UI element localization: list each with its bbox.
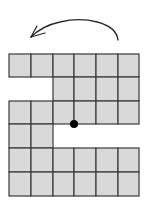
grid-cell <box>9 148 31 172</box>
grid-cell <box>118 172 139 196</box>
grid-cell <box>118 54 139 77</box>
grid-cell <box>9 172 31 196</box>
grid-cell <box>53 101 74 124</box>
grid-cell <box>118 101 139 124</box>
counterclockwise-arrow-icon <box>31 20 118 40</box>
grid-cell <box>74 172 96 196</box>
grid-cell <box>53 54 74 77</box>
diagram-canvas <box>0 0 146 207</box>
rotation-diagram <box>0 0 146 207</box>
grid-cell <box>31 148 53 172</box>
grid-cell <box>118 148 139 172</box>
grid-cell <box>31 172 53 196</box>
grid-cell <box>53 148 74 172</box>
grid-cell <box>9 54 31 77</box>
grid-cell <box>74 101 96 124</box>
grid-cell <box>74 54 96 77</box>
grid-cell <box>9 124 31 148</box>
grid-cell <box>96 54 118 77</box>
grid-cell <box>53 172 74 196</box>
grid-cell <box>74 148 96 172</box>
grid-cell <box>9 101 31 124</box>
grid-cell <box>31 101 53 124</box>
grid-cell <box>74 77 96 101</box>
grid-cell <box>96 148 118 172</box>
grid-cell <box>53 77 74 101</box>
grid-cell <box>96 172 118 196</box>
grid-cell <box>96 77 118 101</box>
grid-cell <box>31 54 53 77</box>
grid-cell <box>118 77 139 101</box>
pivot-point <box>70 120 78 128</box>
grid-cell <box>96 101 118 124</box>
grid-cell <box>31 124 53 148</box>
